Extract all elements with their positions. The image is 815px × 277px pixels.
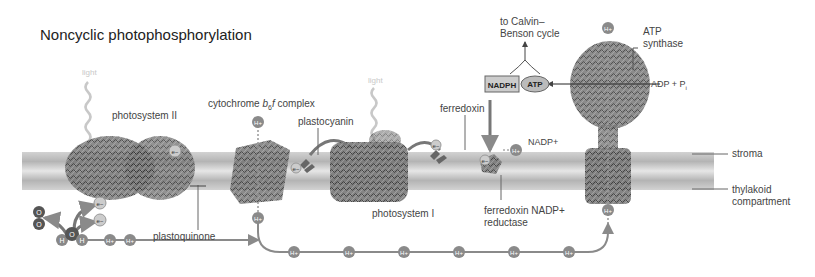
stroma-label: stroma xyxy=(732,148,763,160)
svg-text:H: H xyxy=(59,237,64,244)
svg-text:H+: H+ xyxy=(510,250,518,256)
electron-icon: e− xyxy=(94,197,106,209)
photosystem-i-label: photosystem I xyxy=(372,208,434,220)
svg-text:O: O xyxy=(36,221,42,228)
svg-text:e−: e− xyxy=(433,143,440,149)
adp-pi-label: ADP + Pi xyxy=(651,78,687,94)
svg-text:H+: H+ xyxy=(290,250,298,256)
svg-text:H: H xyxy=(79,237,84,244)
svg-text:H+: H+ xyxy=(106,238,114,244)
fnr-label: ferredoxin NADP+reductase xyxy=(484,205,565,229)
proton-icon: H+ xyxy=(510,144,522,156)
electron-icon: e− xyxy=(431,140,441,150)
svg-text:O: O xyxy=(69,231,75,238)
svg-text:H+: H+ xyxy=(345,250,353,256)
electron-icon: e− xyxy=(169,145,181,157)
svg-text:H+: H+ xyxy=(604,26,612,32)
water-molecule: H O H xyxy=(56,227,88,246)
svg-text:H+: H+ xyxy=(565,250,573,256)
proton-icon: H+ xyxy=(508,246,520,258)
electron-icon: e− xyxy=(480,155,490,165)
proton-icon: H+ xyxy=(252,116,264,128)
proton-icon: H+ xyxy=(124,234,136,246)
plastocyanin-label: plastocyanin xyxy=(298,116,354,128)
proton-icon: H+ xyxy=(343,246,355,258)
svg-text:H+: H+ xyxy=(604,208,612,214)
thylakoid-compartment-label: thylakoidcompartment xyxy=(732,184,790,208)
electron-icon: e− xyxy=(291,163,301,173)
photosystem-i-protein xyxy=(330,142,408,202)
proton-icon: H+ xyxy=(252,212,264,224)
cytochrome-label: cytochrome b6f complex xyxy=(208,98,315,114)
proton-icon: H+ xyxy=(453,246,465,258)
calvin-cycle-label: to Calvin–Benson cycle xyxy=(500,16,559,40)
oxygen-molecule: O O xyxy=(33,206,45,230)
light-label: light xyxy=(368,76,383,85)
svg-text:H+: H+ xyxy=(455,250,463,256)
light-label: light xyxy=(82,68,97,77)
plastoquinone-label: plastoquinone xyxy=(153,231,215,243)
svg-text:H+: H+ xyxy=(254,216,262,222)
svg-text:e−: e− xyxy=(97,201,104,207)
atp-synthase-label: ATPsynthase xyxy=(643,26,683,50)
proton-icon: H+ xyxy=(602,22,614,34)
atp-synthase-head xyxy=(570,41,650,129)
electron-icon: e− xyxy=(94,214,106,226)
ferredoxin-label: ferredoxin xyxy=(440,103,484,115)
proton-icon: H+ xyxy=(398,246,410,258)
svg-text:O: O xyxy=(36,209,42,216)
svg-text:H+: H+ xyxy=(512,148,520,154)
svg-text:ATP: ATP xyxy=(527,80,543,89)
svg-text:e−: e− xyxy=(482,158,489,164)
photosystem-ii-label: photosystem II xyxy=(112,110,177,122)
svg-text:e−: e− xyxy=(172,149,179,155)
proton-icon: H+ xyxy=(602,204,614,216)
diagram-canvas: NADPH ATP O O H O H e− e xyxy=(0,0,815,277)
proton-icon: H+ xyxy=(288,246,300,258)
diagram-stage: Noncyclic photophosphorylation xyxy=(0,0,815,277)
cytochrome-b6f-protein xyxy=(230,140,290,204)
proton-icon: H+ xyxy=(563,246,575,258)
svg-text:H+: H+ xyxy=(126,238,134,244)
svg-text:e−: e− xyxy=(97,218,104,224)
proton-icon: H+ xyxy=(104,234,116,246)
svg-text:e−: e− xyxy=(293,166,300,172)
svg-text:H+: H+ xyxy=(400,250,408,256)
nadp-label: NADP+ xyxy=(528,136,558,148)
svg-text:NADPH: NADPH xyxy=(488,81,517,90)
svg-text:H+: H+ xyxy=(254,120,262,126)
